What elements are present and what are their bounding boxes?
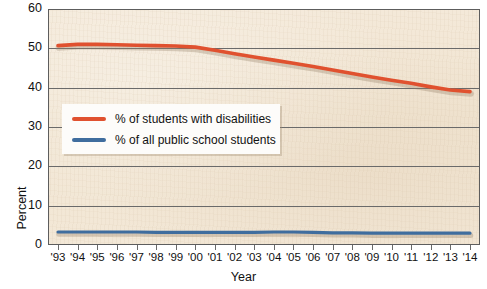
x-tick-label-96: '96 [109,251,124,263]
y-tick-label-60: 60 [18,1,42,15]
x-tick-label-11: '11 [404,251,418,263]
x-tick-label-02: '02 [227,251,242,263]
x-axis-title: Year [0,270,487,284]
x-tick-label-99: '99 [168,251,183,263]
x-tick-label-94: '94 [70,251,85,263]
x-tick-07 [333,245,334,250]
x-tick-09 [372,245,373,250]
legend-item-all-public-school-students: % of all public school students [72,130,276,150]
x-tick-12 [431,245,432,250]
x-tick-94 [78,245,79,250]
x-tick-03 [254,245,255,250]
y-axis-title-container: Percent [2,90,18,170]
x-tick-02 [235,245,236,250]
x-tick-99 [176,245,177,250]
x-tick-label-00: '00 [188,251,203,263]
x-tick-label-93: '93 [51,251,66,263]
x-tick-00 [195,245,196,250]
x-tick-04 [274,245,275,250]
legend-swatch-blue [72,138,106,142]
x-tick-label-05: '05 [286,251,301,263]
x-tick-13 [450,245,451,250]
x-tick-label-97: '97 [129,251,144,263]
y-tick-label-50: 50 [18,40,42,54]
x-tick-label-03: '03 [247,251,262,263]
x-tick-label-08: '08 [345,251,360,263]
x-tick-label-95: '95 [90,251,105,263]
y-tick-label-10: 10 [18,198,42,212]
x-tick-14 [470,245,471,250]
y-tick-label-30: 30 [18,119,42,133]
y-tick-label-20: 20 [18,158,42,172]
x-tick-label-98: '98 [149,251,164,263]
x-tick-label-13: '13 [443,251,458,263]
x-tick-97 [137,245,138,250]
x-tick-label-07: '07 [325,251,340,263]
x-tick-label-12: '12 [423,251,438,263]
x-tick-93 [58,245,59,250]
x-tick-05 [293,245,294,250]
x-tick-08 [352,245,353,250]
x-tick-label-10: '10 [384,251,399,263]
series-line-students-with-disabilities [58,44,470,91]
x-tick-label-09: '09 [364,251,379,263]
x-tick-06 [313,245,314,250]
y-tick-label-0: 0 [18,237,42,251]
x-tick-label-04: '04 [266,251,281,263]
chart-figure: Percent 0102030405060 '93'94'95'96'97'98… [0,0,487,289]
x-tick-98 [156,245,157,250]
legend-swatch-red [72,117,106,121]
x-tick-label-01: '01 [208,251,223,263]
x-tick-label-14: '14 [463,251,478,263]
x-tick-96 [117,245,118,250]
series-line-all-public-school-students [58,232,470,233]
y-tick-label-40: 40 [18,80,42,94]
series-shadow-0 [59,47,471,94]
chart-legend: % of students with disabilities % of all… [62,104,280,154]
legend-label-all-public-school-students: % of all public school students [115,133,276,147]
legend-item-students-with-disabilities: % of students with disabilities [72,109,271,129]
x-tick-label-06: '06 [306,251,321,263]
x-tick-01 [215,245,216,250]
x-tick-11 [411,245,412,250]
x-tick-95 [97,245,98,250]
x-tick-10 [392,245,393,250]
legend-label-students-with-disabilities: % of students with disabilities [115,112,271,126]
